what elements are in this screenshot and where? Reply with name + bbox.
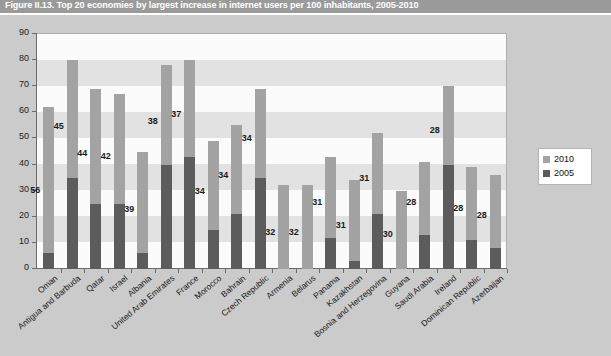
x-axis-category-labels: OmanAntigua and BarbudaQatarIsraelAlbani…	[0, 271, 611, 356]
bar-segment-2005	[349, 261, 360, 269]
y-axis-tick-label: 90	[7, 27, 29, 37]
bar-column	[490, 175, 501, 269]
y-axis-tick-label: 80	[7, 53, 29, 63]
bar-value-label: 28	[428, 125, 442, 135]
legend-item-2005: 2005	[543, 166, 587, 180]
y-axis-tick-mark	[32, 164, 36, 165]
bar-column	[184, 60, 195, 269]
bar-value-label: 42	[99, 151, 113, 161]
bar-column	[443, 86, 454, 269]
bar-segment-2005	[490, 248, 501, 269]
page-title: Figure II.13. Top 20 economies by larges…	[5, 0, 418, 12]
bar-value-label: 37	[169, 109, 183, 119]
bar-segment-2010	[466, 167, 477, 240]
bar-segment-2010	[67, 60, 78, 178]
bar-value-label: 31	[334, 220, 348, 230]
y-axis-tick-mark	[32, 216, 36, 217]
bar-column	[231, 125, 242, 269]
legend-label-2005: 2005	[554, 169, 574, 178]
legend-swatch-2010	[543, 156, 550, 163]
bar-segment-2010	[184, 60, 195, 157]
bar-column	[90, 89, 101, 269]
bar-segment-2010	[90, 89, 101, 204]
y-axis-tick-label: 30	[7, 184, 29, 194]
bar-segment-2005	[372, 214, 383, 269]
bar-segment-2005	[208, 230, 219, 269]
bar-value-label: 45	[52, 121, 66, 131]
bar-segment-2010	[137, 152, 148, 254]
bar-column	[255, 89, 266, 269]
bar-segment-2005	[419, 235, 430, 269]
bar-value-label: 34	[240, 133, 254, 143]
bar-column	[325, 157, 336, 269]
y-axis-tick-mark	[32, 111, 36, 112]
bar-segment-2005	[325, 238, 336, 269]
legend-swatch-2005	[543, 170, 550, 177]
bar-column	[137, 152, 148, 270]
bar-column	[349, 180, 360, 269]
bar-value-label: 28	[475, 210, 489, 220]
y-axis-tick-label: 10	[7, 236, 29, 246]
bar-segment-2010	[208, 141, 219, 230]
y-axis-tick-mark	[32, 242, 36, 243]
legend-label-2010: 2010	[554, 155, 574, 164]
y-axis-tick-label: 40	[7, 158, 29, 168]
y-axis-tick-label: 70	[7, 79, 29, 89]
bar-segment-2005	[67, 178, 78, 269]
bar-value-label: 56	[28, 185, 42, 195]
bar-value-label: 30	[381, 229, 395, 239]
figure-title-bar: Figure II.13. Top 20 economies by larges…	[0, 0, 611, 13]
bar-segment-2010	[490, 175, 501, 248]
bar-value-label: 34	[193, 186, 207, 196]
bar-segment-2010	[419, 162, 430, 235]
bar-column	[114, 94, 125, 269]
bar-segment-2005	[443, 165, 454, 269]
bar-segment-2005	[137, 253, 148, 269]
bar-value-label: 44	[75, 148, 89, 158]
bar-segment-2005	[255, 178, 266, 269]
bar-value-label: 34	[216, 170, 230, 180]
y-axis-tick-label: 60	[7, 105, 29, 115]
y-axis-tick-mark	[32, 137, 36, 138]
figure-container: Figure II.13. Top 20 economies by larges…	[0, 0, 611, 356]
bar-column	[208, 141, 219, 269]
legend-item-2010: 2010	[543, 152, 587, 166]
bar-segment-2005	[184, 157, 195, 269]
bar-segment-2010	[372, 133, 383, 214]
bar-segment-2010	[349, 180, 360, 261]
bar-column	[67, 60, 78, 269]
bar-value-label: 39	[122, 204, 136, 214]
y-axis-tick-mark	[32, 85, 36, 86]
bar-segment-2005	[43, 253, 54, 269]
y-axis-tick-mark	[32, 268, 36, 269]
bar-value-label: 38	[146, 116, 160, 126]
bar-segment-2005	[231, 214, 242, 269]
bar-value-label: 31	[310, 197, 324, 207]
bar-segment-2010	[443, 86, 454, 164]
chart-legend: 2010 2005	[538, 148, 592, 185]
bar-segment-2010	[255, 89, 266, 178]
bar-value-label: 28	[404, 197, 418, 207]
y-axis-tick-mark	[32, 59, 36, 60]
bar-segment-2010	[114, 94, 125, 204]
bar-value-label: 32	[263, 227, 277, 237]
bar-column	[419, 162, 430, 269]
bar-segment-2005	[466, 240, 477, 269]
bar-segment-2005	[90, 204, 101, 269]
bar-column	[43, 107, 54, 269]
bar-column	[372, 133, 383, 269]
bar-value-label: 32	[287, 227, 301, 237]
y-axis-tick-label: 50	[7, 131, 29, 141]
y-axis-tick-label: 20	[7, 210, 29, 220]
y-axis-tick-mark	[32, 33, 36, 34]
bar-column	[161, 65, 172, 269]
chart-panel: 0102030405060708090 56454442393837343434…	[0, 15, 611, 356]
bar-series-layer: 5645444239383734343432323131313028282828	[37, 33, 507, 269]
bar-value-label: 31	[357, 173, 371, 183]
bar-value-label: 28	[451, 203, 465, 213]
bar-segment-2005	[161, 165, 172, 269]
